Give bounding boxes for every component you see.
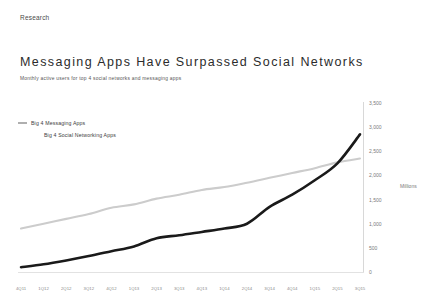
x-axis-tick: 1Q15 (310, 286, 321, 291)
series-line-social (21, 159, 360, 229)
line-chart-svg (18, 100, 364, 275)
x-axis-tick: 3Q15 (355, 286, 366, 291)
x-axis-tick: 1Q12 (38, 286, 49, 291)
x-axis-tick: 4Q14 (287, 286, 298, 291)
y-axis-tick: 3,500 (369, 100, 382, 106)
chart-plot-area (18, 100, 364, 275)
x-axis-tick: 3Q13 (174, 286, 185, 291)
y-axis-line (363, 102, 364, 273)
x-axis-tick: 2Q15 (332, 286, 343, 291)
y-axis-tick: 1,000 (369, 221, 382, 227)
x-axis-tick: 2Q14 (242, 286, 253, 291)
x-axis-tick: 4Q11 (16, 286, 26, 291)
y-axis-tick: 1,500 (369, 197, 382, 203)
x-axis-tick: 4Q12 (106, 286, 117, 291)
page-title: Messaging Apps Have Surpassed Social Net… (20, 55, 364, 69)
x-axis-tick: 3Q12 (84, 286, 95, 291)
x-axis-tick: 2Q13 (151, 286, 162, 291)
y-axis-tick: 3,000 (369, 124, 382, 130)
kicker-label: Research (20, 14, 49, 21)
y-axis-tick: 2,500 (369, 148, 382, 154)
series-line-messaging (21, 134, 360, 267)
x-axis-tick: 3Q14 (264, 286, 275, 291)
x-axis-line (18, 272, 364, 273)
y-axis-label: Millions (400, 183, 417, 189)
x-axis-tick: 1Q13 (129, 286, 140, 291)
x-axis-tick: 2Q12 (61, 286, 72, 291)
chart-subtitle: Monthly active users for top 4 social ne… (20, 76, 181, 81)
y-axis-tick: 500 (369, 245, 377, 251)
y-axis-tick: 0 (369, 269, 372, 275)
x-axis-tick: 4Q13 (197, 286, 208, 291)
y-axis-tick: 2,000 (369, 172, 382, 178)
x-axis-tick: 1Q14 (219, 286, 230, 291)
